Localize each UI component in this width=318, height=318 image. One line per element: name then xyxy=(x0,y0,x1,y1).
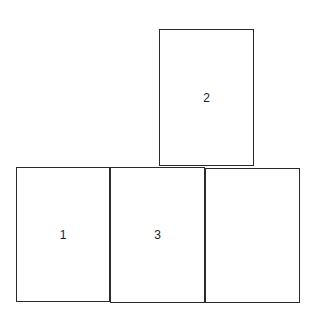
card-label: 1 xyxy=(60,229,67,241)
card-top: 2 xyxy=(159,29,254,166)
card-bottom-left: 1 xyxy=(16,167,110,302)
card-bottom-right xyxy=(205,168,300,303)
card-bottom-middle: 3 xyxy=(110,167,205,303)
card-label: 3 xyxy=(154,229,161,241)
card-layout-diagram: 2 1 3 xyxy=(0,0,318,318)
card-label: 2 xyxy=(203,92,210,104)
